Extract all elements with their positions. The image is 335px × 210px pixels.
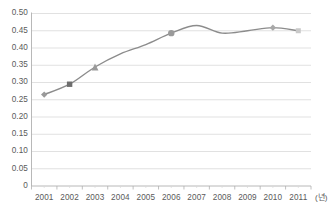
x-axis-tick-label: 2003 <box>86 194 105 202</box>
x-axis-tick-label: 2008 <box>213 194 232 202</box>
x-axis-tick-label: 2009 <box>238 194 257 202</box>
x-axis-tick-label: 2004 <box>111 194 130 202</box>
x-axis-tick-label: 2011 <box>289 194 307 202</box>
x-axis-tick-label: 2010 <box>264 194 283 202</box>
x-axis-tick-label: 2006 <box>162 194 181 202</box>
x-axis-unit-label: (년) <box>315 194 327 202</box>
x-axis-tick-label: 2002 <box>60 194 79 202</box>
x-axis-labels: 2001200220032004200520062007200820092010… <box>0 0 335 210</box>
x-axis-tick-label: 2007 <box>187 194 206 202</box>
line-chart: 0.500.450.400.350.300.250.200.150.100.05… <box>0 0 335 210</box>
x-axis-tick-label: 2005 <box>137 194 156 202</box>
x-axis-tick-label: 2001 <box>35 194 54 202</box>
